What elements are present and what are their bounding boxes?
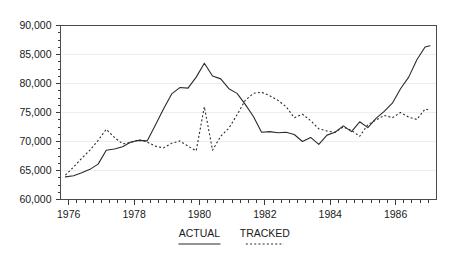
legend-label-tracked: TRACKED	[240, 227, 291, 239]
legend-label-actual: ACTUAL	[179, 227, 221, 239]
y-axis-label-85000: 85,000	[19, 48, 51, 60]
y-axis-label-70000: 70,000	[19, 135, 51, 147]
line-chart: 60,00065,00070,00075,00080,00085,00090,0…	[0, 0, 452, 259]
series-line-actual	[65, 46, 430, 177]
x-axis-label-1982: 1982	[253, 208, 277, 220]
y-axis-label-75000: 75,000	[19, 106, 51, 118]
y-axis-label-90000: 90,000	[19, 19, 51, 31]
y-axis-label-80000: 80,000	[19, 77, 51, 89]
gridlines	[62, 55, 436, 171]
x-axis-label-1976: 1976	[57, 208, 81, 220]
chart-legend: ACTUALTRACKED	[178, 227, 290, 245]
y-axis-label-60000: 60,000	[19, 193, 51, 205]
x-axis-label-1986: 1986	[384, 208, 408, 220]
y-axis-tick-labels: 60,00065,00070,00075,00080,00085,00090,0…	[19, 19, 51, 205]
x-axis-label-1980: 1980	[188, 208, 212, 220]
data-series	[65, 46, 430, 177]
x-axis-label-1984: 1984	[319, 208, 343, 220]
x-axis-ticks	[69, 200, 429, 205]
y-axis-ticks	[56, 26, 61, 200]
x-axis-label-1978: 1978	[122, 208, 146, 220]
y-axis-label-65000: 65,000	[19, 164, 51, 176]
x-axis-tick-labels: 197619781980198219841986	[57, 208, 407, 220]
series-line-tracked	[65, 92, 430, 175]
chart-container: 60,00065,00070,00075,00080,00085,00090,0…	[0, 0, 452, 259]
